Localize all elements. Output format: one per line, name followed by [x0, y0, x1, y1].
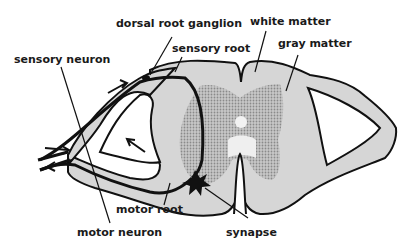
label-dorsal-root-ganglion: dorsal root ganglion [116, 17, 242, 30]
spinal-cord-diagram: dorsal root ganglion sensory root white … [0, 0, 412, 251]
diagram-canvas: dorsal root ganglion sensory root white … [0, 0, 412, 251]
label-gray-matter: gray matter [278, 37, 352, 50]
label-motor-neuron: motor neuron [77, 226, 162, 239]
nerve-strand [38, 152, 70, 170]
dorsal-root-ganglion-cell [142, 75, 150, 81]
label-sensory-root: sensory root [172, 42, 250, 55]
label-sensory-neuron: sensory neuron [14, 53, 110, 66]
anterior-white-commissure [228, 136, 256, 159]
label-white-matter: white matter [250, 15, 331, 28]
central-canal [235, 116, 247, 128]
label-synapse: synapse [226, 226, 277, 239]
label-motor-root: motor root [116, 203, 183, 216]
